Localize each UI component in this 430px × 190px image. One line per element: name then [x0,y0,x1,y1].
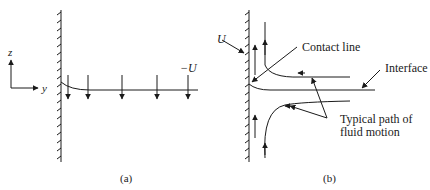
path-label-line2: fluid motion [340,126,400,138]
velocity-arrows-a [68,75,188,99]
interface-b [249,84,375,90]
wall-a [57,10,61,162]
contact-line-label: Contact line [302,41,360,53]
wall-velocity-label: U [217,33,226,45]
interface-label: Interface [385,62,428,74]
wall-b [245,10,249,162]
lower-streamline [265,101,350,158]
caption-a: (a) [120,172,132,184]
diagram-figure [0,0,430,190]
diagram-canvas: z y −U (a) U Contact line Interface Typi… [0,0,430,190]
velocity-label-a: −U [180,62,197,74]
axes-icon [11,60,38,88]
path-label-line1: Typical path of [340,113,412,125]
axis-y-label: y [42,82,47,94]
axis-z-label: z [8,46,12,58]
interface-a [61,82,198,90]
caption-b: (b) [323,172,336,184]
